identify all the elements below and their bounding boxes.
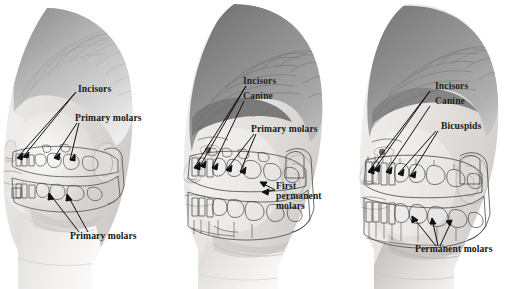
child-head-photo [0, 0, 150, 289]
dental-development-figure: Incisors Primary molars Primary molars [0, 0, 512, 289]
panel-mixed-dentition: Incisors Canine Primary molars First per… [174, 0, 340, 289]
panel-2-illustration [174, 0, 340, 289]
panel-primary-dentition: Incisors Primary molars Primary molars [0, 0, 150, 289]
child-head-photo [352, 0, 512, 289]
child-head-photo [174, 0, 340, 289]
panel-permanent-dentition: Incisors Canine Bicuspids Permanent mola… [352, 0, 512, 289]
panel-3-illustration [352, 0, 512, 289]
panel-1-illustration [0, 0, 150, 289]
